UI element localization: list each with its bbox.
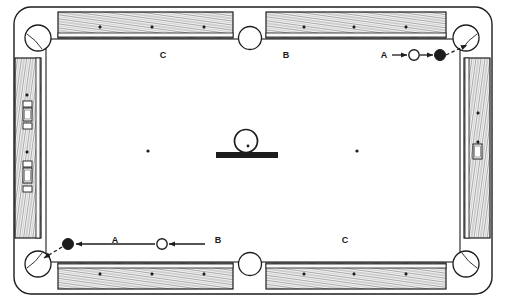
pocket-bottom-left[interactable]: [25, 251, 51, 277]
clamp-left-upper: [23, 108, 32, 121]
center-ball: [235, 130, 258, 153]
rail-top-right: [266, 12, 446, 38]
label-top-left: C: [160, 50, 167, 60]
pocket-bottom-middle[interactable]: [239, 253, 262, 276]
shot-top-right-object-ball: [435, 50, 446, 61]
label-bottom-left-shot: A: [112, 235, 119, 245]
spot-left: [146, 149, 149, 152]
pocket-top-left[interactable]: [25, 25, 51, 51]
center-bar: [216, 152, 278, 158]
rail-bottom-left: [58, 263, 233, 289]
shot-top-right-cue-ball: [409, 50, 419, 60]
clamp-left-lower: [23, 168, 32, 183]
pocket-top-right[interactable]: [453, 25, 479, 51]
clamp-fitting-0: [23, 101, 32, 107]
label-bottom-right: C: [342, 235, 349, 245]
clamp-fitting-2: [23, 161, 32, 167]
spot-right: [355, 149, 358, 152]
billiard-diagram-canvas: CBAABC: [0, 0, 506, 301]
billiard-table-svg: CBAABC: [0, 0, 506, 301]
pocket-bottom-right[interactable]: [453, 251, 479, 277]
rail-bottom-right: [266, 263, 446, 289]
label-bottom-mid: B: [215, 235, 222, 245]
shot-bottom-left-cue-ball: [157, 239, 167, 249]
label-top-shot: A: [381, 50, 388, 60]
pocket-top-middle[interactable]: [239, 27, 262, 50]
clamp-fitting-3: [23, 186, 32, 192]
rail-top-left: [58, 12, 233, 38]
rail-left: [15, 58, 41, 238]
clamp-fitting-1: [23, 123, 32, 129]
center-ball-dot: [247, 145, 250, 148]
clamp-right: [473, 144, 482, 159]
label-top-right: B: [283, 50, 290, 60]
shot-bottom-left-object-ball: [63, 239, 74, 250]
